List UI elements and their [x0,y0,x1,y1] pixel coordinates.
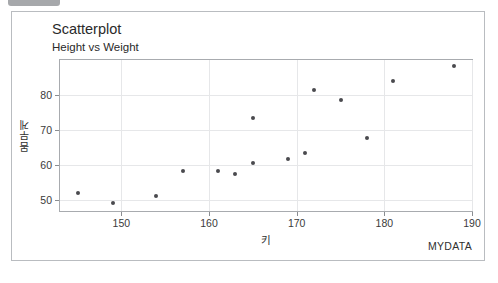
data-point [154,194,158,198]
y-tick-label: 60 [40,159,52,171]
y-tick-label: 80 [40,89,52,101]
x-axis: 150160170180190 [59,212,473,234]
x-axis-title: 키 [59,232,473,247]
title-block: Scatterplot Height vs Weight [52,21,139,55]
data-point [286,157,290,161]
data-point [339,98,343,102]
gridline-vertical [297,60,298,211]
data-point [365,136,369,140]
data-point [76,191,80,195]
gridline-vertical [472,60,473,211]
y-axis-title-text: 몸무게 [16,119,31,152]
footer-label: MYDATA [428,240,472,252]
chart-title: Scatterplot [52,21,139,38]
gridline-vertical [384,60,385,211]
gridline-vertical [121,60,122,211]
x-tick-label: 180 [376,217,394,229]
y-tick-mark [55,95,59,96]
x-tick-label: 160 [200,217,218,229]
x-tick-mark [384,212,385,216]
x-tick-label: 150 [113,217,131,229]
data-point [312,88,316,92]
x-tick-mark [472,212,473,216]
y-tick-mark [55,130,59,131]
x-tick-label: 190 [463,217,481,229]
plot-inner [60,60,472,211]
data-point [216,169,220,173]
y-axis-title: 몸무게 [16,59,30,212]
data-point [303,151,307,155]
y-tick-label: 70 [40,124,52,136]
gridline-vertical [209,60,210,211]
y-tick-label: 50 [40,194,52,206]
data-point [233,172,237,176]
clipped-badge [8,0,60,6]
data-point [251,116,255,120]
chart-subtitle: Height vs Weight [52,40,139,55]
x-tick-label: 170 [288,217,306,229]
data-point [181,169,185,173]
plot-area [59,59,473,212]
y-tick-mark [55,165,59,166]
y-tick-mark [55,200,59,201]
data-point [452,64,456,68]
x-tick-mark [209,212,210,216]
chart-card: Scatterplot Height vs Weight 15016017018… [11,11,485,261]
x-tick-mark [121,212,122,216]
data-point [391,79,395,83]
x-tick-mark [297,212,298,216]
data-point [111,201,115,205]
